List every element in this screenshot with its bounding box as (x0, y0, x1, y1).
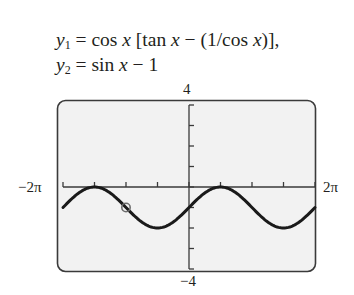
x-max-label: 2π (323, 180, 338, 195)
y-max-label: 4 (183, 82, 191, 97)
graphing-calculator-screen (0, 0, 354, 295)
y-min-label: −4 (180, 274, 196, 289)
x-min-label: −2π (18, 180, 42, 195)
